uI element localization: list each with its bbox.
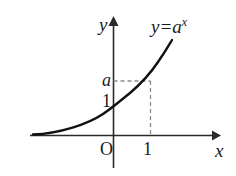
dashed-guides [114, 81, 151, 136]
y-tick-label-one: 1 [95, 92, 111, 110]
graph-canvas [0, 0, 236, 176]
equation-exponent: x [182, 15, 187, 29]
origin-label: O [100, 140, 113, 158]
curve-equation-label: y=ax [151, 16, 187, 36]
x-axis-arrowhead [212, 131, 221, 141]
y-axis-label: y [99, 15, 107, 34]
y-tick-label-a: a [97, 71, 111, 89]
x-axis-label: x [215, 141, 223, 160]
y-axis-arrowhead [109, 16, 119, 26]
equation-base: y=a [151, 16, 182, 37]
exponential-function-figure: y x y=ax a 1 O 1 [0, 0, 236, 176]
x-tick-label-one: 1 [143, 140, 152, 158]
